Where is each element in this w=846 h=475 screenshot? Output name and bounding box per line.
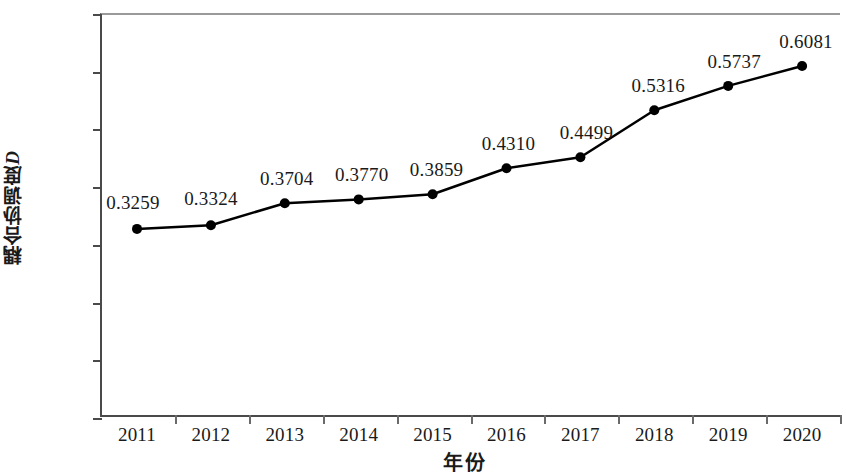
x-axis-title: 年份 [0,447,846,475]
y-axis-tick [93,129,102,131]
data-point-label: 0.3259 [88,193,178,212]
x-axis-tick-label: 2019 [688,424,768,446]
x-axis-tick [397,415,399,424]
x-axis-tick-label: 2015 [393,424,473,446]
data-point-label: 0.5316 [613,76,703,95]
y-axis-tick [93,72,102,74]
plot-area [100,13,840,417]
x-axis-tick-label: 2012 [171,424,251,446]
x-axis-tick [618,415,620,424]
x-axis-tick [766,415,768,424]
y-axis-tick [93,14,102,16]
x-axis-tick-label: 2013 [245,424,325,446]
data-point-label: 0.6081 [761,32,846,51]
y-axis-tick [93,418,102,420]
data-point-label: 0.4499 [541,123,631,142]
y-axis-title-text: 耦合协调度 [2,165,24,265]
x-axis-tick [249,415,251,424]
y-axis-title: 耦合协调度D [1,150,31,265]
data-point-label: 0.5737 [689,52,779,71]
y-axis-title-symbol: D [2,150,23,165]
x-axis-tick [840,415,842,424]
data-point-label: 0.3859 [392,160,482,179]
x-axis-tick-label: 2017 [540,424,620,446]
x-axis-tick-label: 2011 [97,424,177,446]
x-axis-tick [471,415,473,424]
x-axis-tick [175,415,177,424]
x-axis-tick-label: 2018 [614,424,694,446]
x-axis-tick-label: 2014 [319,424,399,446]
x-axis-tick-label: 2016 [467,424,547,446]
y-axis-tick [93,187,102,189]
y-axis-tick [93,245,102,247]
x-axis-tick-label: 2020 [762,424,842,446]
x-axis-tick [544,415,546,424]
x-axis-tick [323,415,325,424]
y-axis-tick [93,360,102,362]
y-axis-tick [93,303,102,305]
data-point-label: 0.3324 [166,189,256,208]
data-point-label: 0.4310 [464,134,554,153]
x-axis-tick [692,415,694,424]
